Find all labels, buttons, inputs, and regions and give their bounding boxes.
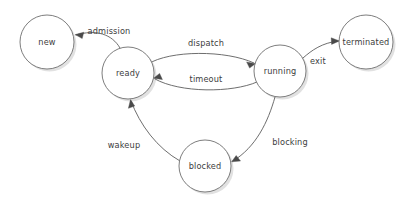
edge-wakeup-label: wakeup <box>108 140 141 150</box>
node-running[interactable]: running <box>254 45 306 97</box>
node-terminated[interactable]: terminated <box>339 15 393 69</box>
edge-blocking-path <box>233 97 275 161</box>
edge-blocking-label: blocking <box>272 137 308 147</box>
edge-wakeup-path <box>131 101 180 161</box>
edge-exit-arrowhead <box>331 38 339 45</box>
node-terminated-label: terminated <box>343 37 390 47</box>
edge-timeout-label: timeout <box>190 74 224 84</box>
edge-admission[interactable]: admission <box>75 26 130 49</box>
edge-blocking[interactable]: blocking <box>232 97 308 162</box>
edge-dispatch-label: dispatch <box>188 38 224 48</box>
edge-admission-label: admission <box>88 26 131 36</box>
edge-admission-arrowhead <box>75 32 84 38</box>
edge-timeout[interactable]: timeout <box>154 73 257 90</box>
node-ready[interactable]: ready <box>102 47 154 99</box>
node-ready-label: ready <box>116 68 140 78</box>
node-new[interactable]: new <box>20 15 74 69</box>
node-blocked[interactable]: blocked <box>179 140 231 192</box>
node-blocked-label: blocked <box>189 161 222 171</box>
node-new-label: new <box>38 37 56 47</box>
edge-exit-label: exit <box>310 56 326 66</box>
diagram-canvas: admission dispatch timeout exit <box>0 0 408 207</box>
edge-exit[interactable]: exit <box>303 38 339 66</box>
state-diagram: admission dispatch timeout exit <box>0 0 408 207</box>
node-running-label: running <box>264 66 297 76</box>
edge-dispatch[interactable]: dispatch <box>148 38 255 69</box>
edge-dispatch-path <box>148 53 254 64</box>
edge-wakeup[interactable]: wakeup <box>108 100 180 161</box>
